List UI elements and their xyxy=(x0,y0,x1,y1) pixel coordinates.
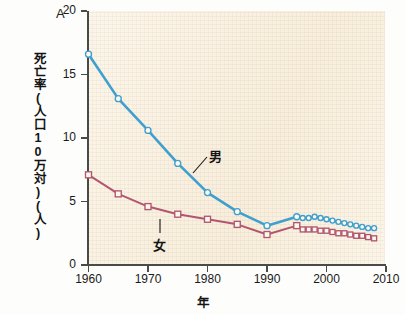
data-point xyxy=(324,228,329,233)
data-point xyxy=(342,221,347,226)
data-point xyxy=(312,227,317,232)
data-point xyxy=(354,223,359,228)
data-point xyxy=(175,211,181,217)
series-label-female: 女 xyxy=(153,235,166,254)
data-point xyxy=(300,227,305,232)
data-point xyxy=(115,191,121,197)
data-point xyxy=(336,231,341,236)
data-point xyxy=(330,218,335,223)
leader-line-male xyxy=(193,157,207,173)
data-point xyxy=(234,209,240,215)
chart-figure: A 05101520 196019701980199020002010 死亡率(… xyxy=(0,0,406,315)
data-point xyxy=(318,228,323,233)
data-point xyxy=(300,216,305,221)
data-point xyxy=(264,232,270,238)
data-point xyxy=(306,216,311,221)
data-point xyxy=(175,160,181,166)
data-point xyxy=(336,219,341,224)
data-point xyxy=(360,224,365,229)
data-point xyxy=(86,51,92,57)
data-point xyxy=(348,222,353,227)
data-point xyxy=(342,231,347,236)
data-point xyxy=(348,232,353,237)
data-point xyxy=(306,227,311,232)
data-point xyxy=(366,235,371,240)
data-point xyxy=(294,214,300,220)
data-point xyxy=(360,233,365,238)
data-point xyxy=(372,226,377,231)
data-point xyxy=(115,96,121,102)
data-point xyxy=(312,214,317,219)
series-plot xyxy=(0,0,406,315)
data-point xyxy=(330,229,335,234)
data-point xyxy=(234,221,240,227)
data-point xyxy=(145,127,151,133)
data-point xyxy=(354,233,359,238)
data-point xyxy=(205,190,211,196)
data-point xyxy=(264,223,270,229)
data-point xyxy=(145,204,151,210)
data-point xyxy=(205,216,211,222)
data-point xyxy=(324,217,329,222)
series-male xyxy=(86,51,377,230)
data-point xyxy=(318,216,323,221)
data-point xyxy=(294,223,300,229)
data-point xyxy=(86,172,92,178)
data-point xyxy=(366,226,371,231)
data-point xyxy=(372,236,377,241)
series-label-male: 男 xyxy=(209,146,222,165)
series-line-male xyxy=(89,54,375,228)
